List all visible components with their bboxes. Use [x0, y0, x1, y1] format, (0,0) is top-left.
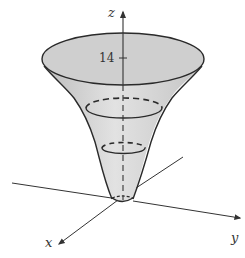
z-axis-label: z	[107, 5, 115, 20]
z-tick-label: 14	[99, 51, 115, 65]
x-axis	[59, 200, 118, 244]
x-axis-label: x	[45, 235, 53, 250]
funnel-diagram: 14 z y x	[0, 0, 245, 258]
y-axis	[133, 201, 240, 218]
y-axis-back	[12, 183, 118, 199]
y-axis-label: y	[230, 230, 239, 245]
